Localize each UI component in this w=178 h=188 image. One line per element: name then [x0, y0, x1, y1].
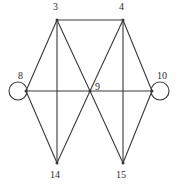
vertex-label-3: 3 — [53, 2, 58, 12]
graph-edge-3-8 — [26, 20, 57, 91]
vertex-label-8: 8 — [18, 71, 23, 81]
graph-vertex-4 — [122, 19, 125, 22]
graph-edge-4-10 — [123, 20, 152, 91]
graph-edge-9-14 — [57, 91, 90, 163]
graph-vertex-14 — [56, 162, 59, 165]
graph-figure: 3489101415 — [0, 0, 178, 188]
graph-canvas — [0, 0, 178, 188]
self-loop-10 — [151, 82, 169, 100]
vertex-label-14: 14 — [50, 170, 60, 180]
graph-edge-10-15 — [123, 91, 152, 163]
vertex-label-15: 15 — [116, 170, 126, 180]
graph-vertex-15 — [122, 162, 125, 165]
graph-edge-8-14 — [26, 91, 57, 163]
graph-edge-3-9 — [57, 20, 90, 91]
graph-vertex-10 — [151, 90, 154, 93]
vertex-label-4: 4 — [119, 2, 124, 12]
self-loop-8 — [9, 82, 27, 100]
vertex-label-10: 10 — [157, 71, 167, 81]
graph-vertex-3 — [56, 19, 59, 22]
graph-vertex-9 — [89, 90, 92, 93]
vertex-label-9: 9 — [95, 82, 100, 92]
graph-vertex-8 — [25, 90, 28, 93]
graph-edge-9-15 — [90, 91, 123, 163]
